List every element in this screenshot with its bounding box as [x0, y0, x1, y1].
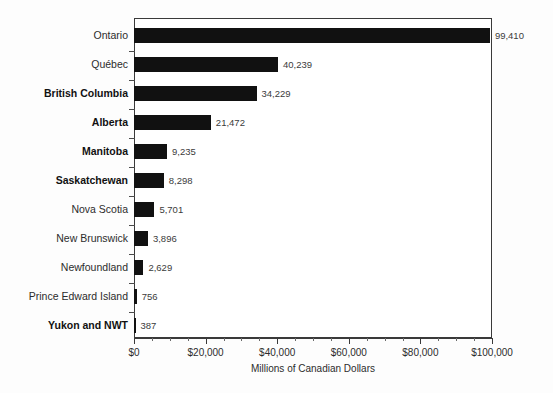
- x-axis-minor-tick: [385, 338, 386, 341]
- bar-value-label: 756: [137, 289, 158, 304]
- bar-value-label: 8,298: [164, 173, 193, 188]
- x-axis-major-tick: [492, 338, 493, 344]
- bar: [134, 260, 143, 275]
- bar-row: 8,298: [134, 166, 492, 195]
- bar-value-label: 34,229: [257, 86, 291, 101]
- x-axis-minor-tick: [313, 338, 314, 341]
- bar: [134, 202, 154, 217]
- category-label: Saskatchewan: [0, 166, 128, 195]
- x-axis-minor-tick: [188, 338, 189, 341]
- bar-row: 34,229: [134, 79, 492, 108]
- x-axis-minor-tick: [170, 338, 171, 341]
- bar: [134, 57, 278, 72]
- bar-row: 2,629: [134, 253, 492, 282]
- bar-value-label: 5,701: [154, 202, 183, 217]
- bar-row: 40,239: [134, 50, 492, 79]
- x-axis-tick-label: $20,000: [188, 347, 224, 358]
- bar-value-label: 99,410: [490, 28, 524, 43]
- category-label: New Brunswick: [0, 224, 128, 253]
- bar: [134, 144, 167, 159]
- x-axis-major-tick: [277, 338, 278, 344]
- x-axis-minor-tick: [295, 338, 296, 341]
- x-axis-major-tick: [134, 338, 135, 344]
- x-axis-tick-label: $0: [128, 347, 139, 358]
- x-axis-tick-label: $60,000: [331, 347, 367, 358]
- x-axis-tick-label: $80,000: [402, 347, 438, 358]
- x-axis-tick-label: $40,000: [259, 347, 295, 358]
- x-axis-major-tick: [206, 338, 207, 344]
- category-label: Alberta: [0, 108, 128, 137]
- category-label: Nova Scotia: [0, 195, 128, 224]
- x-axis-minor-tick: [367, 338, 368, 341]
- x-axis-minor-tick: [259, 338, 260, 341]
- x-axis-minor-tick: [474, 338, 475, 341]
- bar-row: 387: [134, 311, 492, 340]
- category-label: Québec: [0, 50, 128, 79]
- bar-value-label: 2,629: [143, 260, 172, 275]
- x-axis-minor-tick: [456, 338, 457, 341]
- bar: [134, 86, 257, 101]
- bar-value-label: 40,239: [278, 57, 312, 72]
- bar-value-label: 387: [136, 318, 157, 333]
- category-label: British Columbia: [0, 79, 128, 108]
- bar: [134, 28, 490, 43]
- bar-row: 756: [134, 282, 492, 311]
- x-axis-minor-tick: [224, 338, 225, 341]
- bar: [134, 115, 211, 130]
- category-label: Manitoba: [0, 137, 128, 166]
- bar-value-label: 3,896: [148, 231, 177, 246]
- x-axis-minor-tick: [331, 338, 332, 341]
- bar-value-label: 9,235: [167, 144, 196, 159]
- category-label: Newfoundland: [0, 253, 128, 282]
- x-axis-major-tick: [349, 338, 350, 344]
- bar-chart-figure: 99,41040,23934,22921,4729,2358,2985,7013…: [0, 0, 553, 393]
- bar: [134, 173, 164, 188]
- x-axis-title-text: Millions of Canadian Dollars: [251, 363, 375, 374]
- bar-row: 99,410: [134, 21, 492, 50]
- x-axis-tick-label: $100,000: [471, 347, 513, 358]
- category-label: Yukon and NWT: [0, 311, 128, 340]
- bar: [134, 231, 148, 246]
- x-axis-title: Millions of Canadian Dollars: [134, 363, 492, 374]
- category-label: Ontario: [0, 21, 128, 50]
- x-axis-minor-tick: [152, 338, 153, 341]
- bar-row: 3,896: [134, 224, 492, 253]
- category-label: Prince Edward Island: [0, 282, 128, 311]
- x-axis-minor-tick: [438, 338, 439, 341]
- x-axis-minor-tick: [241, 338, 242, 341]
- bar-value-label: 21,472: [211, 115, 245, 130]
- bar-row: 5,701: [134, 195, 492, 224]
- x-axis-minor-tick: [403, 338, 404, 341]
- x-axis-major-tick: [420, 338, 421, 344]
- bar-row: 21,472: [134, 108, 492, 137]
- bar-row: 9,235: [134, 137, 492, 166]
